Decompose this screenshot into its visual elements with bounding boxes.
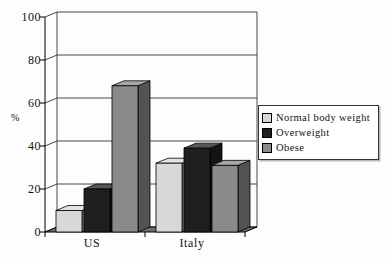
gridline-connector-60 — [45, 98, 57, 103]
legend-label: Normal body weight — [276, 110, 370, 125]
bar-front-face — [212, 165, 238, 232]
y-tick-label-80: 80 — [28, 53, 41, 67]
bar-front-face — [156, 163, 182, 232]
legend-swatch-icon — [262, 113, 272, 123]
legend-swatch-icon — [262, 128, 272, 138]
bar-italy-obese — [212, 160, 250, 232]
legend-swatch-icon — [262, 143, 272, 153]
legend-item-overweight: Overweight — [262, 125, 376, 140]
legend: Normal body weightOverweightObese — [258, 105, 379, 160]
gridline-connector-100 — [45, 12, 57, 17]
bar-side-face — [238, 160, 250, 232]
y-tick-label-40: 40 — [28, 139, 41, 153]
gridline-connector-80 — [45, 55, 57, 60]
bar-side-face — [138, 81, 150, 232]
legend-label: Overweight — [276, 125, 330, 140]
x-category-label-us: US — [84, 236, 101, 250]
legend-item-normal-body-weight: Normal body weight — [262, 110, 376, 125]
y-axis-title: % — [11, 112, 19, 123]
y-tick-label-60: 60 — [28, 96, 41, 110]
chart-figure: 020406080100USItaly% Normal body weightO… — [0, 0, 386, 263]
y-tick-label-0: 0 — [35, 225, 42, 239]
bar-front-face — [84, 189, 110, 232]
bar-front-face — [56, 211, 82, 233]
gridline-connector-40 — [45, 141, 57, 146]
x-category-label-italy: Italy — [180, 236, 205, 250]
bar-front-face — [184, 148, 210, 232]
y-tick-label-20: 20 — [28, 182, 41, 196]
gridline-connector-20 — [45, 184, 57, 189]
bar-front-face — [112, 86, 138, 232]
bar-us-obese — [112, 81, 150, 232]
legend-label: Obese — [276, 140, 304, 155]
legend-item-obese: Obese — [262, 140, 376, 155]
y-tick-label-100: 100 — [22, 10, 42, 24]
